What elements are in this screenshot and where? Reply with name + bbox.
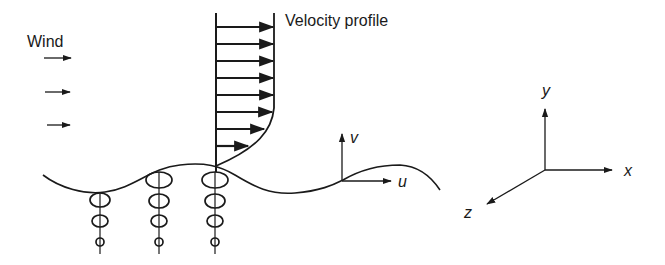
x-axis-label: x	[623, 162, 633, 179]
coordinate-axes	[487, 109, 612, 204]
profile-envelope	[216, 13, 274, 166]
orbit-column	[146, 172, 172, 254]
orbit-columns	[90, 172, 228, 254]
velocity-profile	[216, 13, 274, 172]
water-surface-wave	[43, 164, 440, 193]
z-axis-label: z	[463, 204, 472, 221]
u-axis-label: u	[398, 173, 407, 190]
orbit-column	[202, 172, 228, 254]
wind-wave-diagram: Wind Velocity profile	[0, 0, 665, 265]
orbit-column	[90, 192, 110, 254]
wind-label: Wind	[27, 33, 63, 50]
y-axis-label: y	[541, 82, 551, 99]
z-axis-arrow-icon	[487, 170, 545, 204]
wind-arrows	[44, 58, 71, 125]
v-axis-label: v	[350, 129, 359, 146]
velocity-profile-label: Velocity profile	[285, 12, 388, 29]
